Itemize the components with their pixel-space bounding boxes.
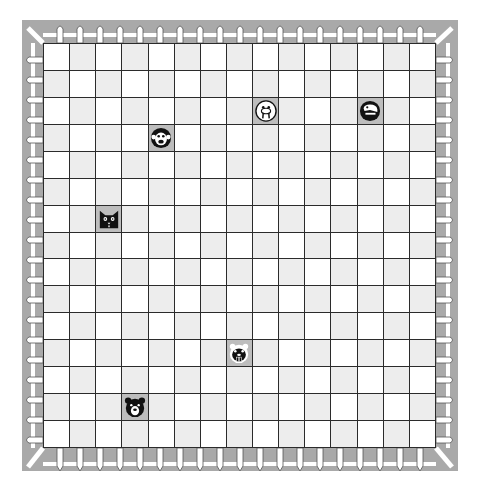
board-cell-r0-c7[interactable] <box>227 44 252 70</box>
board-cell-r4-c7[interactable] <box>227 152 252 178</box>
board-cell-r1-c12[interactable] <box>358 71 383 97</box>
board-cell-r10-c4[interactable] <box>149 313 174 339</box>
board-cell-r1-c2[interactable] <box>96 71 121 97</box>
board-cell-r12-c8[interactable] <box>253 367 278 393</box>
board-cell-r10-c11[interactable] <box>331 313 356 339</box>
board-cell-r11-c1[interactable] <box>70 340 95 366</box>
board-cell-r2-c14[interactable] <box>410 98 435 124</box>
board-cell-r7-c10[interactable] <box>305 233 330 259</box>
board-cell-r2-c13[interactable] <box>384 98 409 124</box>
board-cell-r14-c12[interactable] <box>358 421 383 447</box>
board-cell-r14-c3[interactable] <box>122 421 147 447</box>
board-cell-r9-c14[interactable] <box>410 286 435 312</box>
board-cell-r3-c14[interactable] <box>410 125 435 151</box>
board-cell-r12-c1[interactable] <box>70 367 95 393</box>
board-cell-r11-c5[interactable] <box>175 340 200 366</box>
board-cell-r5-c13[interactable] <box>384 179 409 205</box>
board-cell-r7-c13[interactable] <box>384 233 409 259</box>
board-cell-r11-c2[interactable] <box>96 340 121 366</box>
board-cell-r13-c9[interactable] <box>279 394 304 420</box>
board-cell-r10-c12[interactable] <box>358 313 383 339</box>
board-cell-r0-c10[interactable] <box>305 44 330 70</box>
board-cell-r0-c0[interactable] <box>44 44 69 70</box>
board-cell-r3-c10[interactable] <box>305 125 330 151</box>
board-cell-r12-c13[interactable] <box>384 367 409 393</box>
board-cell-r2-c8[interactable] <box>253 98 278 124</box>
board-cell-r12-c10[interactable] <box>305 367 330 393</box>
board-cell-r0-c11[interactable] <box>331 44 356 70</box>
board-cell-r0-c8[interactable] <box>253 44 278 70</box>
board-cell-r10-c3[interactable] <box>122 313 147 339</box>
board-cell-r2-c0[interactable] <box>44 98 69 124</box>
monkey-icon[interactable] <box>150 127 172 149</box>
board-cell-r6-c1[interactable] <box>70 206 95 232</box>
board-cell-r2-c2[interactable] <box>96 98 121 124</box>
board-cell-r6-c2[interactable] <box>96 206 121 232</box>
board-cell-r3-c7[interactable] <box>227 125 252 151</box>
board-cell-r0-c13[interactable] <box>384 44 409 70</box>
board-cell-r7-c4[interactable] <box>149 233 174 259</box>
board-cell-r10-c5[interactable] <box>175 313 200 339</box>
board-cell-r12-c9[interactable] <box>279 367 304 393</box>
board-cell-r0-c5[interactable] <box>175 44 200 70</box>
board-cell-r1-c7[interactable] <box>227 71 252 97</box>
board-cell-r6-c4[interactable] <box>149 206 174 232</box>
board-cell-r8-c11[interactable] <box>331 259 356 285</box>
board-cell-r3-c0[interactable] <box>44 125 69 151</box>
board-cell-r7-c2[interactable] <box>96 233 121 259</box>
beaver-icon[interactable] <box>228 342 250 364</box>
board-cell-r1-c5[interactable] <box>175 71 200 97</box>
board-cell-r5-c7[interactable] <box>227 179 252 205</box>
board-cell-r14-c10[interactable] <box>305 421 330 447</box>
board-cell-r6-c9[interactable] <box>279 206 304 232</box>
board-cell-r10-c2[interactable] <box>96 313 121 339</box>
board-cell-r3-c13[interactable] <box>384 125 409 151</box>
board-cell-r12-c5[interactable] <box>175 367 200 393</box>
board-cell-r4-c6[interactable] <box>201 152 226 178</box>
board-cell-r13-c7[interactable] <box>227 394 252 420</box>
board-cell-r5-c3[interactable] <box>122 179 147 205</box>
board-cell-r5-c0[interactable] <box>44 179 69 205</box>
board-cell-r5-c5[interactable] <box>175 179 200 205</box>
board-cell-r3-c2[interactable] <box>96 125 121 151</box>
board-cell-r9-c11[interactable] <box>331 286 356 312</box>
board-cell-r8-c2[interactable] <box>96 259 121 285</box>
board-cell-r4-c5[interactable] <box>175 152 200 178</box>
board-cell-r8-c5[interactable] <box>175 259 200 285</box>
board-cell-r4-c10[interactable] <box>305 152 330 178</box>
board-cell-r7-c3[interactable] <box>122 233 147 259</box>
board-cell-r14-c1[interactable] <box>70 421 95 447</box>
board-cell-r11-c8[interactable] <box>253 340 278 366</box>
board-cell-r6-c13[interactable] <box>384 206 409 232</box>
board-cell-r1-c13[interactable] <box>384 71 409 97</box>
board-cell-r6-c14[interactable] <box>410 206 435 232</box>
board-cell-r10-c9[interactable] <box>279 313 304 339</box>
board-cell-r12-c2[interactable] <box>96 367 121 393</box>
board-cell-r5-c11[interactable] <box>331 179 356 205</box>
board-cell-r8-c10[interactable] <box>305 259 330 285</box>
board-cell-r8-c8[interactable] <box>253 259 278 285</box>
board-cell-r0-c2[interactable] <box>96 44 121 70</box>
board-cell-r6-c7[interactable] <box>227 206 252 232</box>
board-cell-r9-c8[interactable] <box>253 286 278 312</box>
board-cell-r1-c11[interactable] <box>331 71 356 97</box>
board-cell-r11-c6[interactable] <box>201 340 226 366</box>
board-cell-r5-c8[interactable] <box>253 179 278 205</box>
board-cell-r8-c4[interactable] <box>149 259 174 285</box>
board-cell-r6-c6[interactable] <box>201 206 226 232</box>
board-cell-r7-c7[interactable] <box>227 233 252 259</box>
board-cell-r1-c9[interactable] <box>279 71 304 97</box>
board-cell-r0-c1[interactable] <box>70 44 95 70</box>
board-cell-r7-c0[interactable] <box>44 233 69 259</box>
board-cell-r0-c14[interactable] <box>410 44 435 70</box>
board-cell-r11-c7[interactable] <box>227 340 252 366</box>
board-cell-r3-c1[interactable] <box>70 125 95 151</box>
board-cell-r4-c12[interactable] <box>358 152 383 178</box>
board-cell-r14-c0[interactable] <box>44 421 69 447</box>
board-cell-r4-c2[interactable] <box>96 152 121 178</box>
bear-icon[interactable] <box>124 396 146 418</box>
board-cell-r10-c10[interactable] <box>305 313 330 339</box>
board-cell-r4-c3[interactable] <box>122 152 147 178</box>
board-cell-r5-c4[interactable] <box>149 179 174 205</box>
board-cell-r11-c13[interactable] <box>384 340 409 366</box>
